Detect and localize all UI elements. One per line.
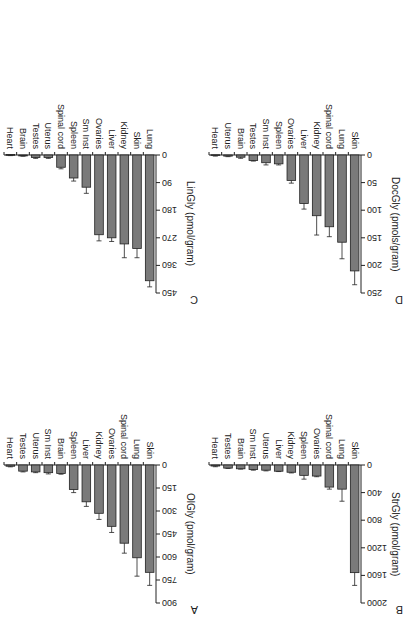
y-tick-label: 0 bbox=[162, 460, 167, 470]
bar bbox=[350, 155, 359, 271]
y-tick-label: 250 bbox=[367, 288, 382, 298]
bar bbox=[236, 465, 245, 469]
bar bbox=[133, 465, 142, 558]
bar bbox=[350, 465, 359, 573]
bar bbox=[69, 155, 78, 178]
bar bbox=[6, 155, 15, 156]
bar bbox=[312, 465, 321, 476]
category-label: Lung bbox=[337, 439, 347, 459]
category-label: Uterus bbox=[31, 432, 41, 459]
y-tick-label: 750 bbox=[162, 575, 177, 585]
bar-chart-d: 050100150200250SkinLungSpinal cordKidney… bbox=[205, 0, 409, 310]
bar bbox=[249, 465, 258, 469]
category-label: Ovaries bbox=[107, 428, 117, 460]
bar bbox=[211, 155, 220, 156]
y-tick-label: 450 bbox=[162, 529, 177, 539]
y-tick-label: 1600 bbox=[367, 570, 387, 580]
y-tick-label: 360 bbox=[162, 260, 177, 270]
category-label: Sm Inst bbox=[261, 118, 271, 149]
category-label: Heart bbox=[210, 127, 220, 150]
category-label: Testes bbox=[31, 123, 41, 150]
bar bbox=[262, 465, 271, 470]
category-label: Ovaries bbox=[312, 428, 322, 460]
bar bbox=[224, 465, 233, 468]
category-label: Skin bbox=[350, 131, 360, 149]
y-tick-label: 270 bbox=[162, 233, 177, 243]
panel-d-docgly: D DocGly (pmols/gram) 050100150200250Ski… bbox=[205, 0, 409, 310]
category-label: Spinal cord bbox=[119, 414, 129, 459]
y-tick-label: 150 bbox=[162, 483, 177, 493]
y-tick-label: 0 bbox=[162, 150, 167, 160]
category-label: Uterus bbox=[223, 122, 233, 149]
category-label: Heart bbox=[210, 437, 220, 460]
category-label: Uterus bbox=[261, 432, 271, 459]
y-tick-label: 800 bbox=[367, 515, 382, 525]
bar bbox=[120, 465, 129, 543]
bar bbox=[224, 155, 233, 156]
y-tick-label: 2000 bbox=[367, 598, 387, 608]
bar bbox=[107, 155, 116, 238]
bar bbox=[338, 465, 347, 489]
category-label: Liver bbox=[274, 439, 284, 459]
category-label: Lung bbox=[145, 129, 155, 149]
bar bbox=[95, 155, 104, 235]
category-label: Liver bbox=[81, 439, 91, 459]
y-tick-label: 200 bbox=[367, 260, 382, 270]
category-label: Sm Inst bbox=[43, 428, 53, 459]
bar bbox=[249, 155, 258, 161]
category-label: Lung bbox=[132, 439, 142, 459]
y-tick-label: 0 bbox=[367, 460, 372, 470]
bar bbox=[69, 465, 78, 490]
bar bbox=[300, 465, 309, 475]
bar bbox=[274, 465, 283, 471]
y-tick-label: 150 bbox=[367, 233, 382, 243]
bar bbox=[31, 155, 40, 157]
bar bbox=[19, 465, 28, 471]
category-label: Testes bbox=[223, 433, 233, 460]
category-label: Liver bbox=[107, 129, 117, 149]
category-label: Ovaries bbox=[286, 118, 296, 150]
y-tick-label: 400 bbox=[367, 488, 382, 498]
category-label: Heart bbox=[5, 127, 15, 150]
y-tick-label: 600 bbox=[162, 552, 177, 562]
bar bbox=[145, 155, 154, 281]
y-tick-label: 90 bbox=[162, 178, 172, 188]
category-label: Kidney bbox=[119, 121, 129, 149]
bar bbox=[82, 465, 91, 502]
panel-c-lingly: C LinGly (pmol/gram) 090180270360450Lung… bbox=[0, 0, 204, 310]
bar bbox=[6, 465, 15, 466]
category-label: Skin bbox=[350, 441, 360, 459]
category-label: Brain bbox=[236, 438, 246, 459]
category-label: Skin bbox=[145, 441, 155, 459]
y-tick-label: 100 bbox=[367, 205, 382, 215]
bar bbox=[211, 465, 220, 466]
bar bbox=[31, 465, 40, 472]
bar bbox=[338, 155, 347, 242]
bar bbox=[19, 155, 28, 156]
bar bbox=[120, 155, 129, 244]
bar bbox=[325, 465, 334, 487]
panel-b-strgly: B StrGly (pmol/gram) 0400800120016002000… bbox=[205, 310, 409, 620]
bar bbox=[274, 155, 283, 164]
y-tick-label: 450 bbox=[162, 288, 177, 298]
y-tick-label: 180 bbox=[162, 205, 177, 215]
bar bbox=[57, 155, 66, 167]
bar bbox=[82, 155, 91, 187]
bar bbox=[300, 155, 309, 204]
category-label: Brain bbox=[56, 438, 66, 459]
category-label: Liver bbox=[299, 129, 309, 149]
category-label: Uterus bbox=[43, 122, 53, 149]
y-tick-label: 0 bbox=[367, 150, 372, 160]
bar-chart-a: 0150300450600750900SkinLungSpinal cordOv… bbox=[0, 310, 204, 620]
bar bbox=[287, 155, 296, 180]
category-label: Testes bbox=[18, 433, 28, 460]
category-label: Spinal cord bbox=[324, 414, 334, 459]
category-label: Testes bbox=[248, 123, 258, 150]
bar bbox=[262, 155, 271, 163]
bar-chart-b: 0400800120016002000SkinLungSpinal cordOv… bbox=[205, 310, 409, 620]
category-label: Kidney bbox=[312, 121, 322, 149]
category-label: Kidney bbox=[286, 431, 296, 459]
bar bbox=[133, 155, 142, 249]
category-label: Spleen bbox=[299, 431, 309, 459]
category-label: Spleen bbox=[69, 121, 79, 149]
